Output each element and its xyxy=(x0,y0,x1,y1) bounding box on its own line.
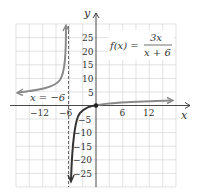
equation-lhs: f(x) = xyxy=(109,40,139,51)
svg-text:20: 20 xyxy=(82,47,94,57)
svg-text:−15: −15 xyxy=(73,142,92,152)
svg-text:−12: −12 xyxy=(30,108,49,118)
left-branch-curve xyxy=(18,26,66,93)
x-axis-label: x xyxy=(181,109,188,122)
svg-text:−10: −10 xyxy=(73,128,92,138)
svg-text:−25: −25 xyxy=(73,169,92,179)
right-branch-upper-curve xyxy=(96,101,172,106)
equation-denominator: x + 6 xyxy=(144,47,171,58)
function-graph: y x −12 −6 6 12 25 20 15 10 5 −5 −10 −15… xyxy=(0,0,202,194)
svg-text:12: 12 xyxy=(143,108,154,118)
asymptote-label: x = −6 xyxy=(30,92,66,103)
origin-point xyxy=(94,103,99,108)
svg-text:10: 10 xyxy=(82,74,94,84)
svg-text:−5: −5 xyxy=(78,115,92,125)
svg-text:−20: −20 xyxy=(73,155,92,165)
equation-numerator: 3x xyxy=(150,32,162,43)
svg-text:−6: −6 xyxy=(59,108,73,118)
y-axis-label: y xyxy=(83,7,91,20)
svg-text:25: 25 xyxy=(82,33,94,43)
svg-text:5: 5 xyxy=(88,88,94,98)
svg-text:15: 15 xyxy=(82,60,94,70)
svg-text:6: 6 xyxy=(120,108,126,118)
